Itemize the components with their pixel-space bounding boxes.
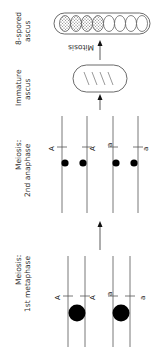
svg-text:a: a: [142, 147, 150, 151]
label-line1: 8-spored: [14, 12, 23, 45]
label-eight-spored-ascus: 8-spored ascus: [14, 12, 32, 45]
eight-spored-ascus: [54, 13, 150, 34]
svg-text:A: A: [54, 295, 62, 300]
label-immature-ascus: Immature ascus: [14, 69, 32, 106]
label-meiosis-2nd-anaphase: Meiosis: 2nd anaphase: [14, 140, 32, 197]
arrow-mitosis: Mitosis: [68, 40, 103, 60]
svg-text:a: a: [139, 296, 147, 300]
label-line1: Meiosis:: [14, 255, 23, 285]
svg-text:A: A: [48, 146, 56, 151]
label-line2: ascus: [23, 21, 32, 42]
label-line1: Immature: [14, 69, 23, 106]
diagram-canvas: 8-spored ascus Immature ascus Meiosis: 2…: [0, 0, 160, 361]
meiosis-2nd-anaphase: [57, 116, 143, 213]
svg-text:A: A: [89, 295, 97, 300]
label-line1: Meiosis:: [14, 140, 23, 170]
label-line2: ascus: [23, 79, 32, 100]
label-line2: 2nd anaphase: [23, 143, 32, 197]
arrow-to-2nd-anaphase: [98, 221, 103, 250]
immature-ascus: [73, 65, 127, 92]
meiosis-1st-metaphase: [63, 256, 135, 347]
mitosis-label: Mitosis: [68, 43, 94, 52]
centromeres-1st-metaphase: [69, 305, 130, 322]
svg-text:a: a: [106, 292, 114, 296]
svg-text:a: a: [106, 143, 114, 147]
svg-text:A: A: [89, 146, 97, 151]
arrow-to-immature-ascus: [98, 94, 103, 110]
label-meiosis-1st-metaphase: Meiosis: 1st metaphase: [14, 255, 32, 312]
centromeres-2nd-anaphase: [61, 159, 137, 166]
label-line2: 1st metaphase: [23, 256, 32, 312]
